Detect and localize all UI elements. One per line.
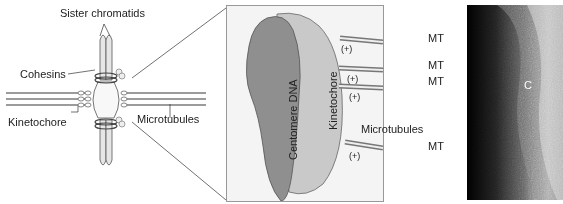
plus-end-label: (+) <box>349 151 360 161</box>
label-mt: MT <box>428 75 444 87</box>
label-kinetochore-detail: Kinetochore <box>327 71 339 130</box>
plus-end-label: (+) <box>349 92 360 102</box>
kinetochore-detail-panel: Centomere DNA Kinetochore (+) (+) (+) (+… <box>226 5 384 202</box>
micrograph-texture <box>467 5 563 200</box>
label-cohesins: Cohesins <box>20 68 66 80</box>
label-microtubules-detail: Microtubules <box>361 123 423 135</box>
label-c: C <box>524 79 532 91</box>
electron-micrograph: C <box>467 5 563 200</box>
label-kinetochore: Kinetochore <box>8 116 67 128</box>
label-mt: MT <box>428 32 444 44</box>
label-sister-chromatids: Sister chromatids <box>60 7 145 19</box>
label-centromere-dna: Centomere DNA <box>287 79 299 160</box>
plus-end-label: (+) <box>341 44 352 54</box>
label-microtubules: Microtubules <box>137 113 199 125</box>
label-mt: MT <box>428 140 444 152</box>
kinetochore-detail-drawing <box>227 6 383 201</box>
plus-end-label: (+) <box>347 74 358 84</box>
label-mt: MT <box>428 59 444 71</box>
